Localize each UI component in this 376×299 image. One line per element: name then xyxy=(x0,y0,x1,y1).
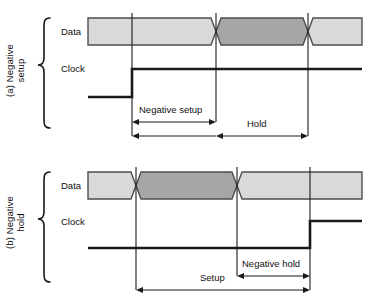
panel-a-measure-baseline xyxy=(132,133,216,139)
panel-b-data-label: Data xyxy=(61,180,81,191)
panel-b-setup-label: Setup xyxy=(198,272,227,283)
panel-negative-setup: (a) Negativesetup xyxy=(0,0,376,149)
panel-b-clock-waveform xyxy=(88,221,362,248)
panel-a-data-waveform xyxy=(88,18,362,45)
panel-b-clock-label: Clock xyxy=(61,216,85,227)
panel-a-clock-waveform xyxy=(88,69,362,97)
panel-b-measure-setup xyxy=(136,287,310,293)
panel-a-graphics xyxy=(0,0,376,149)
panel-b-measure-negative-hold xyxy=(237,273,310,279)
panel-a-clock-label: Clock xyxy=(61,63,85,74)
panel-a-brace-icon xyxy=(38,18,50,128)
panel-a-data-label: Data xyxy=(61,26,81,37)
panel-a-negative-setup-label: Negative setup xyxy=(137,104,204,115)
timing-diagram-figure: (a) Negativesetup xyxy=(0,0,376,299)
panel-a-measure-negative-setup xyxy=(132,119,216,125)
panel-b-graphics xyxy=(0,150,376,299)
panel-b-negative-hold-label: Negative hold xyxy=(240,258,302,269)
panel-negative-hold: (b) Negativehold xyxy=(0,150,376,299)
panel-b-brace-icon xyxy=(38,172,50,282)
panel-b-data-waveform xyxy=(88,172,362,199)
panel-a-hold-label: Hold xyxy=(245,118,269,129)
panel-a-measure-hold xyxy=(216,133,308,139)
